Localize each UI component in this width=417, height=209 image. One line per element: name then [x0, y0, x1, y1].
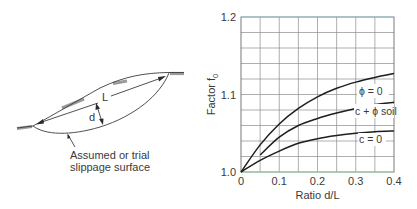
x-tick-label: 0.3 — [348, 175, 363, 187]
x-tick-label: 0 — [238, 175, 244, 187]
chord-label: L — [102, 91, 108, 103]
curve-label-c-zero: c = 0 — [359, 133, 382, 145]
x-tick-label: 0.1 — [272, 175, 287, 187]
y-axis-label-subscript: 0 — [211, 74, 220, 78]
caption-line-2: slippage surface — [70, 161, 150, 173]
x-tick-label: 0.2 — [310, 175, 325, 187]
slope-diagram: L d Assumed or trial slippage surface — [17, 73, 184, 174]
figure: L d Assumed or trial slippage surface 00… — [0, 0, 417, 209]
x-axis-label: Ratio d/L — [295, 189, 339, 201]
y-axis-label: Factor f0 — [205, 74, 220, 115]
depth-arrow — [96, 103, 104, 125]
x-tick-label: 0.4 — [386, 175, 401, 187]
curve-label-c-phi-soil: c + ϕ soil — [355, 105, 397, 117]
curve-label-phi-zero: ϕ = 0 — [359, 85, 383, 97]
chord-length-arrow — [36, 76, 166, 125]
arrowhead-left-icon — [36, 119, 44, 125]
arrowhead-down-icon — [99, 119, 104, 126]
factor-chart: 00.10.20.30.41.01.11.2 Ratio d/L Factor … — [205, 11, 402, 201]
arrowhead-up-icon — [96, 103, 101, 110]
depth-label: d — [89, 111, 95, 123]
y-tick-label: 1.1 — [221, 89, 236, 101]
slippage-surface — [33, 73, 169, 133]
y-tick-label: 1.0 — [221, 166, 236, 178]
tick-labels: 00.10.20.30.41.01.11.2 — [221, 11, 402, 187]
y-tick-label: 1.2 — [221, 11, 236, 23]
caption-line-1: Assumed or trial — [70, 149, 149, 161]
y-axis-label-main: Factor f — [205, 77, 217, 115]
